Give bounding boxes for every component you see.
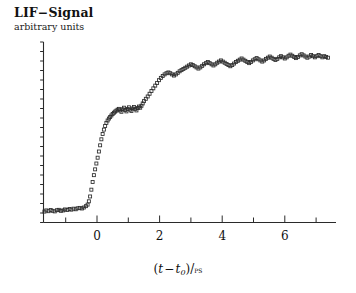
data-point bbox=[94, 168, 97, 171]
data-point bbox=[95, 162, 98, 165]
x-axis-tick-label: 6 bbox=[281, 229, 289, 243]
data-point bbox=[96, 156, 99, 159]
data-point bbox=[87, 200, 90, 203]
x-axis-tick-label: 0 bbox=[93, 229, 101, 243]
data-point bbox=[99, 144, 102, 147]
x-axis-label-t: t bbox=[158, 262, 163, 276]
x-axis-label-slash: )/ bbox=[186, 262, 195, 276]
data-point bbox=[89, 195, 92, 198]
data-point bbox=[91, 180, 94, 183]
data-point bbox=[97, 150, 100, 153]
data-point bbox=[104, 124, 107, 127]
x-axis-label-unit: ps bbox=[194, 265, 202, 275]
x-axis-label: (t − t0)/ps bbox=[0, 262, 356, 277]
x-axis-tick-label: 4 bbox=[218, 229, 226, 243]
x-axis-label-minus: − bbox=[164, 262, 174, 276]
data-point bbox=[102, 128, 105, 131]
lif-signal-figure: LIF−Signal arbitrary units 0246 (t − t0)… bbox=[0, 0, 356, 293]
plot-canvas: 0246 bbox=[0, 0, 356, 293]
data-series-lif-signal bbox=[43, 53, 330, 213]
x-axis-tick-label: 2 bbox=[156, 229, 164, 243]
data-point bbox=[92, 174, 95, 177]
data-point bbox=[90, 188, 93, 191]
data-point bbox=[101, 133, 104, 136]
data-point bbox=[100, 138, 103, 141]
